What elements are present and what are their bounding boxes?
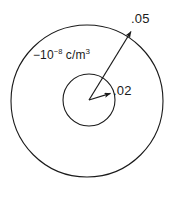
inner-radius-label: .02 <box>113 84 132 97</box>
physics-diagram-figure: .05 .02 −10−8 c/m3 <box>0 0 181 198</box>
outer-radius-label: .05 <box>131 12 150 25</box>
charge-density-mantissa: 10 <box>40 48 54 62</box>
charge-density-unit-exponent: 3 <box>86 47 91 56</box>
diagram-canvas <box>0 0 181 198</box>
charge-density-unit-base: c/m <box>62 48 85 62</box>
charge-density-label: −10−8 c/m3 <box>33 49 90 61</box>
